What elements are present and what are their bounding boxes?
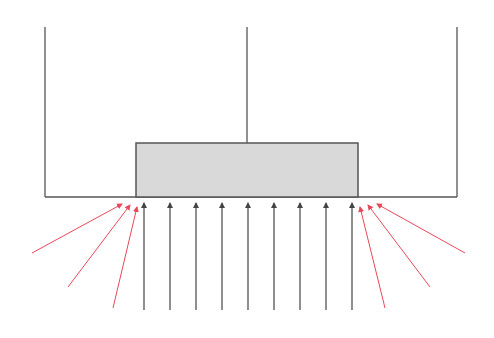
block bbox=[136, 143, 358, 197]
oblique-arrows-left-group bbox=[32, 204, 137, 308]
vertical-arrows-group bbox=[144, 203, 352, 310]
oblique-arrows-right-group bbox=[360, 204, 465, 308]
diagram-canvas bbox=[0, 0, 494, 338]
oblique-arrow-left bbox=[32, 204, 122, 253]
shaded-block bbox=[136, 143, 358, 197]
oblique-arrow-right bbox=[368, 205, 430, 287]
oblique-arrow-right bbox=[377, 204, 465, 253]
